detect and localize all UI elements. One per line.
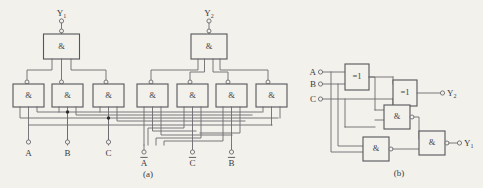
gate-nand-1: & [13, 84, 44, 107]
gate-nand-5: & [177, 84, 208, 107]
input-terminal-b-bar: B [228, 150, 235, 168]
input-terminal-a: A [25, 140, 32, 158]
gate-symbol-label: & [58, 41, 65, 51]
gate-symbol-label: & [105, 90, 112, 100]
output-label-y2: Y2 [204, 8, 214, 19]
gate-symbol-label: & [64, 90, 71, 100]
svg-text:Y1: Y1 [57, 8, 67, 19]
output-label-y2-sub: 2 [454, 93, 457, 99]
circuit-diagram-svg: & & [0, 0, 483, 188]
input-terminal-c-bar: C [189, 150, 196, 168]
gate-symbol-label: =1 [400, 87, 409, 97]
gate-symbol-label: & [206, 41, 213, 51]
figure-container: & & [0, 0, 483, 188]
gate-symbol-label: =1 [352, 71, 361, 81]
output-terminal-y1 [59, 19, 63, 34]
gate-symbol-label: & [429, 137, 436, 147]
output-terminal-y2 [207, 19, 211, 34]
gate-symbol-label: & [268, 90, 275, 100]
output-label-y1: Y1 [464, 138, 474, 149]
input-label-c-bar: C [189, 158, 195, 168]
input-label-b: B [64, 148, 70, 158]
output-label-y1-sub: 1 [471, 143, 474, 149]
gate-symbol-label: & [373, 143, 380, 153]
input-label-a-bar: A [141, 158, 148, 168]
output-label-y2: Y2 [447, 88, 457, 99]
gate-nand-7: & [256, 84, 287, 107]
diagram-a: & & [13, 8, 287, 179]
gate-nand-lower: & [363, 137, 419, 161]
gate-nand-y1: & [44, 34, 80, 59]
input-terminal-c: C [105, 140, 111, 158]
gate-nand-4: & [137, 84, 168, 107]
output-label-y1-sub: 1 [63, 13, 66, 19]
gate-nand-y2: & [191, 34, 227, 59]
gate-symbol-label: & [25, 90, 32, 100]
input-bus-wiring [20, 107, 280, 150]
input-terminal-b-b: B [310, 79, 345, 89]
gate-nand-out: & Y1 [419, 131, 474, 155]
input-label-b: B [310, 79, 316, 89]
gate-nand-3: & [93, 84, 124, 107]
input-terminal-b-c: C [310, 94, 393, 104]
input-label-c: C [105, 148, 111, 158]
fanout-y2 [151, 59, 268, 80]
output-label-y1: Y1 [57, 8, 67, 19]
gate-nand-6: & [216, 84, 247, 107]
gate-symbol-label: & [394, 111, 401, 121]
gate-xor-2: =1 Y2 [393, 77, 457, 106]
input-label-b-bar: B [228, 158, 234, 168]
gate-nand-2: & [52, 84, 83, 107]
gate-symbol-label: & [228, 90, 235, 100]
input-terminal-b: B [64, 140, 70, 158]
input-label-a: A [25, 148, 32, 158]
diagram-b: A B C =1 [310, 64, 474, 178]
input-terminal-a-bar: A [140, 150, 147, 168]
gate-symbol-label: & [189, 90, 196, 100]
gate-input-bubbles [25, 80, 270, 84]
input-label-a: A [310, 67, 317, 77]
svg-text:Y2: Y2 [204, 8, 214, 19]
caption-b: (b) [394, 168, 405, 178]
input-label-c: C [310, 94, 316, 104]
caption-a: (a) [143, 169, 153, 179]
gate-symbol-label: & [149, 90, 156, 100]
input-terminal-b-a: A [310, 67, 346, 77]
output-label-y2-sub: 2 [211, 13, 214, 19]
fanout-y1 [27, 59, 106, 80]
